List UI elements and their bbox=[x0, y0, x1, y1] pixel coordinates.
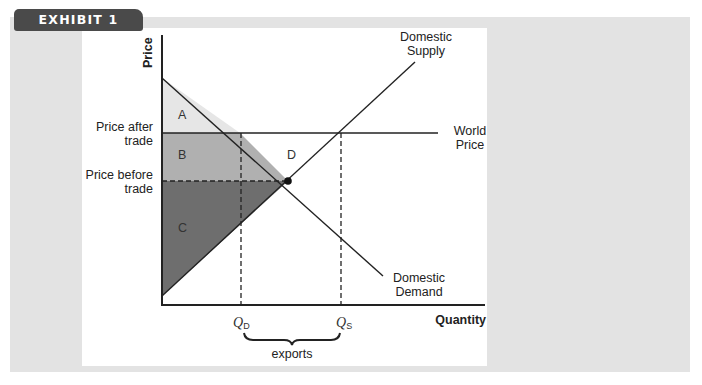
exports-brace bbox=[244, 333, 340, 345]
equilibrium-point bbox=[284, 177, 292, 185]
supply-label-2: Supply bbox=[407, 44, 446, 58]
demand-label-1: Domestic bbox=[393, 271, 445, 285]
region-d-label: D bbox=[287, 148, 296, 162]
exports-label: exports bbox=[272, 347, 313, 361]
x-axis-label: Quantity bbox=[435, 313, 486, 327]
region-a-label: A bbox=[178, 108, 187, 122]
demand-label-2: Demand bbox=[395, 285, 442, 299]
trade-diagram: Price Quantity Price after trade Price b… bbox=[0, 0, 702, 385]
world-price-label-1: World bbox=[454, 124, 486, 138]
price-after-trade-label-1: Price after bbox=[96, 120, 153, 134]
region-c-label: C bbox=[178, 221, 187, 235]
world-price-label-2: Price bbox=[456, 138, 485, 152]
qs-label: QS bbox=[336, 315, 352, 331]
qd-main: Q bbox=[233, 315, 243, 330]
supply-label-1: Domestic bbox=[400, 30, 452, 44]
region-b-label: B bbox=[178, 148, 186, 162]
y-axis-label: Price bbox=[141, 37, 155, 68]
qd-label: QD bbox=[233, 315, 250, 331]
price-before-trade-label-1: Price before bbox=[86, 168, 153, 182]
qd-sub: D bbox=[243, 321, 250, 331]
region-a bbox=[162, 78, 240, 133]
qs-main: Q bbox=[336, 315, 346, 330]
price-after-trade-label-2: trade bbox=[125, 134, 154, 148]
qs-sub: S bbox=[346, 321, 352, 331]
price-before-trade-label-2: trade bbox=[125, 182, 154, 196]
